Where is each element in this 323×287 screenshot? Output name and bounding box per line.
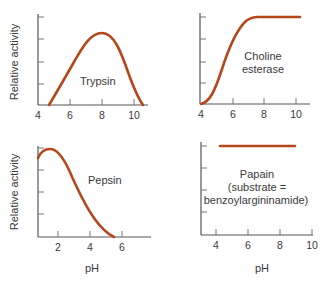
y-ticks xyxy=(200,17,206,83)
x-ticks xyxy=(233,98,296,104)
x-ticks xyxy=(70,99,134,105)
trypsin-label: Trypsin xyxy=(80,75,116,87)
x-axis-title: pH xyxy=(85,262,99,274)
x-tick-label: 6 xyxy=(245,239,251,251)
x-axis-title: pH xyxy=(255,262,269,274)
x-tick-label: 4 xyxy=(35,109,41,121)
panel-papain: 4 6 8 10 Papain (substrate = benzoylargi… xyxy=(201,142,318,274)
pepsin-label: Pepsin xyxy=(88,174,122,186)
x-tick-label: 6 xyxy=(230,108,236,120)
choline-esterase-label-line2: esterase xyxy=(242,63,284,75)
papain-label-line2: (substrate = xyxy=(228,181,286,193)
x-tick-label: 8 xyxy=(99,109,105,121)
trypsin-curve xyxy=(49,33,143,105)
x-tick-label: 10 xyxy=(306,239,318,251)
x-tick-label: 10 xyxy=(290,108,302,120)
pepsin-curve xyxy=(38,149,114,237)
x-tick-label: 8 xyxy=(261,108,267,120)
panel-pepsin: Relative activity 2 4 6 Pepsin pH xyxy=(8,146,151,274)
x-tick-label: 4 xyxy=(213,239,219,251)
x-tick-label: 10 xyxy=(128,109,140,121)
papain-label-line3: benzoylargininamide) xyxy=(204,194,309,206)
enzyme-ph-activity-figure: Relative activity 4 6 8 10 Trypsin xyxy=(0,0,323,287)
y-axis-title: Relative activity xyxy=(8,23,20,100)
x-tick-label: 4 xyxy=(87,241,93,253)
x-tick-label: 8 xyxy=(277,239,283,251)
y-axis-title: Relative activity xyxy=(8,153,20,230)
x-ticks xyxy=(216,229,312,235)
panel-choline-esterase: 4 6 8 10 Choline esterase xyxy=(198,13,310,120)
x-tick-label: 6 xyxy=(119,241,125,253)
x-tick-label: 6 xyxy=(67,109,73,121)
papain-label-line1: Papain xyxy=(240,168,274,180)
x-tick-label: 2 xyxy=(55,241,61,253)
y-ticks xyxy=(38,17,44,84)
panel-trypsin: Relative activity 4 6 8 10 Trypsin xyxy=(8,14,148,121)
choline-esterase-label-line1: Choline xyxy=(244,50,281,62)
x-tick-label: 4 xyxy=(198,108,204,120)
